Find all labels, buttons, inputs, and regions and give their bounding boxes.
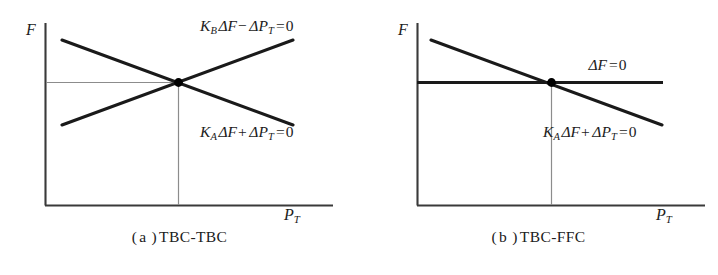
kb-eq-a: = [274, 17, 286, 34]
x-axis-label-b: PT [656, 207, 672, 225]
caption-paren-open-b: ( [492, 228, 498, 245]
ka-value-b: 0 [629, 123, 637, 140]
caption-paren-open-a: ( [132, 228, 138, 245]
ka-eq-b: = [617, 123, 629, 140]
panel-tbc-ffc: F PT ΔF=0 KAΔF+ΔPT=0 (b)TBC-FFC [359, 0, 718, 275]
ka-op-b: + [580, 123, 591, 140]
ka-eq-a: = [274, 123, 286, 140]
caption-paren-close-a: ) [152, 228, 158, 245]
kb-deltap-a: ΔP [248, 17, 268, 34]
dfz-value-b: 0 [619, 56, 627, 73]
ka-deltap-a: ΔP [248, 123, 268, 140]
x-axis-label-sub-a: T [294, 213, 300, 225]
caption-b: (b)TBC-FFC [359, 228, 718, 246]
ka-deltaf-b: ΔF [560, 123, 580, 140]
kb-k-sub-a: B [211, 25, 217, 36]
ka-k-b: K [543, 123, 553, 140]
caption-label-a: a [139, 228, 146, 245]
ka-k-a: K [200, 123, 210, 140]
dfz-deltaf-b: ΔF [587, 56, 607, 73]
caption-a: (a)TBC-TBC [0, 228, 359, 246]
caption-paren-close-b: ) [512, 228, 518, 245]
intersection-marker-a [174, 78, 183, 87]
x-axis-label-a: PT [284, 207, 300, 225]
y-axis-label-text-a: F [26, 21, 36, 38]
curve-label-ka-b: KAΔF+ΔPT=0 [543, 124, 636, 142]
figure-container: F PT KBΔF−ΔPT=0 KAΔF+ΔPT=0 (a)TBC-TBC [0, 0, 718, 275]
ka-k-sub-b: A [554, 131, 560, 142]
ka-deltap-b: ΔP [591, 123, 611, 140]
intersection-marker-b [547, 78, 556, 87]
plot-area-b [359, 0, 718, 230]
caption-text-b: TBC-FFC [520, 228, 586, 245]
x-axis-label-main-a: P [284, 206, 294, 223]
kb-k-a: K [200, 17, 210, 34]
panel-tbc-tbc: F PT KBΔF−ΔPT=0 KAΔF+ΔPT=0 (a)TBC-TBC [0, 0, 359, 275]
dfz-eq-b: = [607, 56, 619, 73]
ka-deltaf-a: ΔF [217, 123, 237, 140]
kb-deltaf-a: ΔF [217, 17, 237, 34]
ka-value-a: 0 [286, 123, 294, 140]
caption-text-a: TBC-TBC [159, 228, 227, 245]
kb-op-a: − [237, 17, 248, 34]
caption-label-b: b [499, 228, 507, 245]
x-axis-label-sub-b: T [666, 213, 672, 225]
ka-op-a: + [237, 123, 248, 140]
ka-k-sub-a: A [211, 131, 217, 142]
x-axis-label-main-b: P [656, 206, 666, 223]
y-axis-label-text-b: F [398, 21, 408, 38]
y-axis-label-b: F [398, 22, 408, 38]
curve-label-ka-a: KAΔF+ΔPT=0 [200, 124, 293, 142]
y-axis-label-a: F [26, 22, 36, 38]
curve-label-deltaf-zero-b: ΔF=0 [587, 57, 627, 73]
curve-label-kb-a: KBΔF−ΔPT=0 [200, 18, 293, 36]
plot-area-a [0, 0, 359, 230]
kb-value-a: 0 [286, 17, 294, 34]
